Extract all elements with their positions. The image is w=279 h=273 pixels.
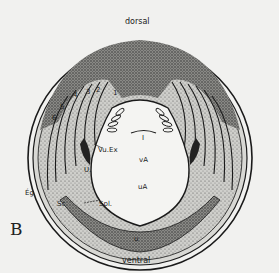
eg-label: Ég — [25, 190, 34, 197]
somite-number-4: 4 — [73, 92, 77, 99]
u-bottom-label: u — [134, 236, 138, 243]
center-mark-label: I — [142, 135, 144, 142]
panel-label: B — [10, 221, 23, 238]
somite-number-2: 2 — [96, 87, 100, 94]
cross-section-drawing — [0, 0, 279, 273]
sc-label: Sc — [57, 201, 65, 208]
va-label: vA — [139, 157, 148, 164]
u-left-label: U. — [84, 167, 91, 174]
somite-number-3: 3 — [86, 89, 90, 96]
embryo-cross-section-figure: dorsal ventral B Vu.Ex U. Ég Sc Spl. vA … — [0, 0, 279, 273]
vu-ex-label: Vu.Ex — [98, 147, 118, 154]
somite-number-6: 6 — [52, 115, 56, 122]
ventral-label: ventral — [122, 257, 150, 265]
spl-label: Spl. — [99, 201, 112, 208]
ua-label: uA — [138, 184, 147, 191]
somite-number-1: 1 — [113, 90, 117, 97]
somite-number-5: 5 — [60, 104, 64, 111]
dorsal-label: dorsal — [125, 18, 150, 26]
